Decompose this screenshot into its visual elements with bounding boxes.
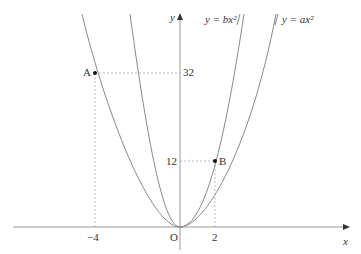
x-tick-minus4: −4: [87, 232, 99, 243]
curve-outer-ax2: [130, 14, 276, 227]
diagram-graphics: [0, 0, 361, 254]
label-leader-bx2: [237, 14, 240, 25]
x-tick-2: 2: [212, 232, 218, 243]
y-axis-label: y: [170, 12, 175, 23]
point-B-label: B: [219, 156, 226, 167]
parabola-diagram: y x O y = bx² y = ax² A B 32 12 −4 2: [0, 0, 361, 254]
curve-label-bx2: y = bx²: [205, 14, 237, 25]
curve-inner-bx2: [82, 14, 244, 227]
curve-label-ax2: y = ax²: [282, 14, 314, 25]
y-tick-32: 32: [183, 67, 194, 78]
y-axis-arrow-icon: [177, 13, 183, 20]
x-axis-label: x: [343, 236, 348, 247]
y-tick-12: 12: [166, 156, 177, 167]
x-axis-arrow-icon: [343, 224, 350, 230]
point-B: [213, 159, 217, 163]
origin-label: O: [170, 232, 178, 243]
point-A: [93, 71, 97, 75]
point-A-label: A: [83, 67, 91, 78]
